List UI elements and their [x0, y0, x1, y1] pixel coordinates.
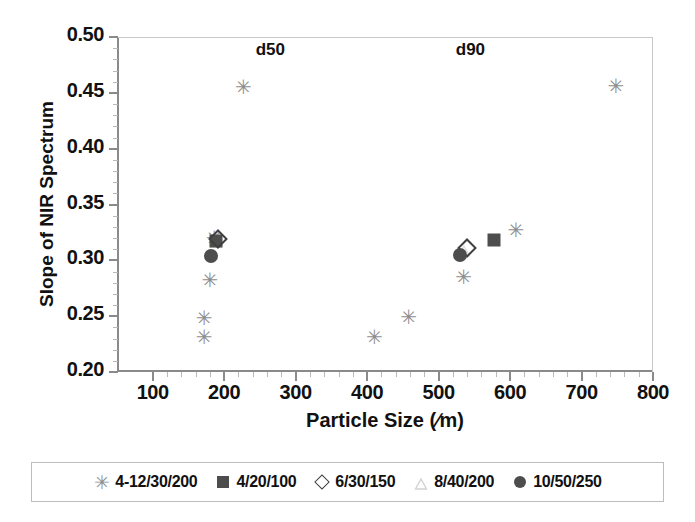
- y-tick-label: 0.50: [0, 23, 104, 46]
- x-tick: [652, 372, 654, 381]
- y-tick-minor: [113, 238, 118, 239]
- y-tick-minor: [113, 350, 118, 351]
- x-tick-label: 200: [189, 381, 259, 404]
- x-tick-minor: [267, 372, 268, 377]
- x-tick-minor: [639, 372, 640, 377]
- x-tick-minor: [210, 372, 211, 377]
- x-tick-minor: [453, 372, 454, 377]
- legend-item-3[interactable]: 8/40/200: [412, 473, 494, 491]
- plot-frame-top: [117, 37, 653, 38]
- y-tick: [109, 371, 118, 373]
- x-tick: [223, 372, 225, 381]
- y-tick-minor: [113, 361, 118, 362]
- open-diamond-icon: [313, 474, 330, 491]
- legend-label: 4/20/100: [236, 473, 296, 491]
- x-tick: [366, 372, 368, 381]
- y-tick-minor: [113, 71, 118, 72]
- legend-item-2[interactable]: 6/30/150: [313, 473, 395, 491]
- y-tick-minor: [113, 115, 118, 116]
- data-point: [453, 248, 467, 262]
- x-tick-minor: [424, 372, 425, 377]
- y-tick-minor: [113, 126, 118, 127]
- data-point: ✳: [235, 79, 252, 96]
- y-tick-minor: [113, 216, 118, 217]
- x-tick-minor: [181, 372, 182, 377]
- legend-item-4[interactable]: 10/50/250: [511, 473, 601, 491]
- y-tick-label: 0.45: [0, 79, 104, 102]
- x-tick-minor: [238, 372, 239, 377]
- y-tick-minor: [113, 249, 118, 250]
- y-tick-minor: [113, 171, 118, 172]
- legend-label: 6/30/150: [335, 473, 395, 491]
- x-tick-minor: [253, 372, 254, 377]
- x-axis-title: Particle Size (∕m): [117, 409, 653, 432]
- x-tick-minor: [196, 372, 197, 377]
- y-tick-minor: [113, 160, 118, 161]
- x-tick-label: 500: [404, 381, 474, 404]
- y-tick-minor: [113, 283, 118, 284]
- x-tick: [509, 372, 511, 381]
- data-point: ✳: [201, 272, 218, 289]
- x-tick-minor: [167, 372, 168, 377]
- x-tick-label: 300: [261, 381, 331, 404]
- x-tick-label: 100: [118, 381, 188, 404]
- plot-frame-right: [652, 37, 653, 372]
- x-tick-minor: [339, 372, 340, 377]
- y-tick-minor: [113, 339, 118, 340]
- x-tick-minor: [596, 372, 597, 377]
- x-tick: [152, 372, 154, 381]
- data-point: ✳: [196, 329, 213, 346]
- legend-item-0[interactable]: ✳4-12/30/200: [93, 473, 197, 491]
- x-tick-minor: [481, 372, 482, 377]
- x-tick: [581, 372, 583, 381]
- y-tick-minor: [113, 193, 118, 194]
- legend-label: 4-12/30/200: [115, 473, 197, 491]
- x-tick-minor: [524, 372, 525, 377]
- open-triangle-icon: [412, 474, 429, 491]
- y-tick-label: 0.30: [0, 246, 104, 269]
- y-tick: [109, 36, 118, 38]
- x-tick-minor: [410, 372, 411, 377]
- legend-label: 10/50/250: [533, 473, 601, 491]
- y-tick-minor: [113, 48, 118, 49]
- x-tick-minor: [310, 372, 311, 377]
- y-tick-minor: [113, 182, 118, 183]
- filled-square-icon: [214, 474, 231, 491]
- y-tick: [109, 204, 118, 206]
- scatter-chart-figure: Slope of NIR Spectrum Particle Size (∕m)…: [0, 0, 695, 522]
- x-tick-minor: [353, 372, 354, 377]
- y-tick-label: 0.40: [0, 135, 104, 158]
- y-tick-minor: [113, 327, 118, 328]
- x-tick-minor: [381, 372, 382, 377]
- x-tick-minor: [624, 372, 625, 377]
- chart-annotation-d90: d90: [456, 40, 485, 60]
- data-point: ✳: [366, 329, 383, 346]
- y-tick: [109, 259, 118, 261]
- y-tick: [109, 148, 118, 150]
- x-tick-minor: [610, 372, 611, 377]
- data-point: ✳: [607, 78, 624, 95]
- data-point: [204, 249, 218, 263]
- x-tick-minor: [553, 372, 554, 377]
- chart-annotation-d50: d50: [256, 40, 285, 60]
- data-point: ✳: [400, 309, 417, 326]
- y-tick-minor: [113, 82, 118, 83]
- y-tick-minor: [113, 104, 118, 105]
- legend-label: 8/40/200: [434, 473, 494, 491]
- data-point: [488, 234, 501, 247]
- y-tick-minor: [113, 138, 118, 139]
- data-point: ✳: [455, 269, 472, 286]
- y-tick-label: 0.35: [0, 191, 104, 214]
- x-tick-minor: [467, 372, 468, 377]
- legend-item-1[interactable]: 4/20/100: [214, 473, 296, 491]
- y-tick-minor: [113, 59, 118, 60]
- x-tick-minor: [396, 372, 397, 377]
- y-tick-minor: [113, 272, 118, 273]
- x-tick-minor: [539, 372, 540, 377]
- x-tick-minor: [496, 372, 497, 377]
- y-tick-label: 0.25: [0, 302, 104, 325]
- y-tick: [109, 315, 118, 317]
- x-tick: [438, 372, 440, 381]
- y-tick-minor: [113, 294, 118, 295]
- x-tick-minor: [324, 372, 325, 377]
